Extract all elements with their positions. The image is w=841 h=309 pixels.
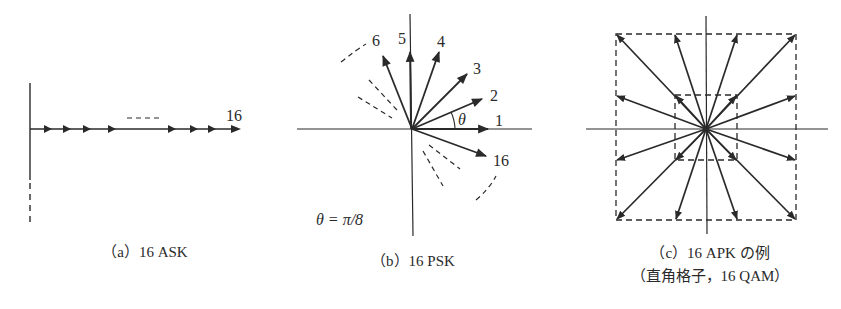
psk-theta-symbol: θ bbox=[458, 111, 466, 128]
psk-label-4: 4 bbox=[437, 33, 445, 50]
psk-vector-2 bbox=[412, 99, 482, 129]
psk-label-2: 2 bbox=[490, 87, 498, 104]
psk-label-1: 1 bbox=[495, 112, 503, 129]
psk-label-5: 5 bbox=[398, 30, 406, 47]
psk-label-6: 6 bbox=[372, 32, 380, 49]
panel-a-ask bbox=[30, 83, 241, 222]
panel-c-qam bbox=[586, 16, 828, 234]
psk-vector-4 bbox=[412, 52, 439, 129]
psk-label-3: 3 bbox=[473, 60, 481, 77]
caption-c-line2: （直角格子，16 QAM） bbox=[620, 266, 800, 286]
psk-theta-arc bbox=[451, 112, 455, 129]
psk-vector-6 bbox=[383, 56, 412, 129]
caption-b: （b）16 PSK bbox=[338, 251, 488, 271]
caption-a: （a）16 ASK bbox=[70, 242, 220, 262]
psk-label-16: 16 bbox=[493, 152, 509, 169]
psk-vector-5 bbox=[410, 52, 411, 129]
caption-c-line1: （c）16 APK の例 bbox=[630, 243, 790, 263]
psk-theta-definition: θ = π/8 bbox=[316, 211, 363, 228]
ask-label-16: 16 bbox=[226, 107, 242, 124]
qam-origin-dot bbox=[703, 126, 709, 132]
